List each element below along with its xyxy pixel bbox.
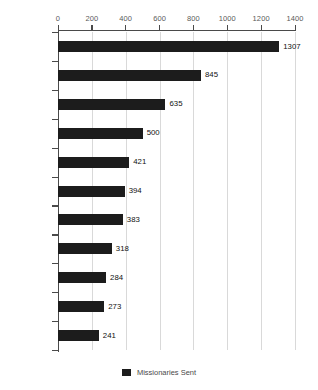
bar-row: PCK (R1)421 <box>58 148 295 177</box>
bar-value-label: 845 <box>205 69 218 80</box>
bar-value-label: 241 <box>103 330 116 341</box>
bar-row: K. Baptist500 <box>58 119 295 148</box>
x-axis-tick-label: 1200 <box>253 14 270 23</box>
bar-row: PCK (KS)273 <box>58 292 295 321</box>
bar-value-label: 383 <box>127 214 140 225</box>
bar-row: Evan (KS)241 <box>58 321 295 350</box>
bar-row: GMS1307 <box>58 32 295 61</box>
bar-value-label: 1307 <box>283 41 300 52</box>
bar-chart: 0200400600800100012001400 GMS1307PCK (T)… <box>0 0 318 390</box>
bar <box>58 301 104 312</box>
bar-value-label: 500 <box>147 127 160 138</box>
y-axis-tick <box>52 350 58 351</box>
bar-value-label: 318 <box>116 243 129 254</box>
chart-legend: Missionaries Sent <box>0 368 318 377</box>
legend-swatch-missionaries-sent <box>122 369 131 376</box>
x-axis-tick-label: 600 <box>153 14 166 23</box>
bar-row: Evan (YS)394 <box>58 177 295 206</box>
bar-value-label: 284 <box>110 272 123 283</box>
bar-row: PCK (T)845 <box>58 61 295 90</box>
bar-row: PCK (DS)318 <box>58 234 295 263</box>
bar <box>58 99 165 110</box>
bar <box>58 157 129 168</box>
x-axis-tick-label: 400 <box>119 14 132 23</box>
x-axis-tick-label: 1000 <box>219 14 236 23</box>
bar <box>58 70 201 81</box>
bar-value-label: 635 <box>169 98 182 109</box>
bar-row: Methodist635 <box>58 90 295 119</box>
bar-row: PCK (R2)383 <box>58 205 295 234</box>
bar-value-label: 394 <box>129 185 142 196</box>
bar <box>58 214 123 225</box>
x-axis-tick-label: 800 <box>187 14 200 23</box>
x-axis-tick-label: 1400 <box>286 14 303 23</box>
bar <box>58 272 106 283</box>
plot-area: GMS1307PCK (T)845Methodist635K. Baptist5… <box>58 32 295 350</box>
bar <box>58 41 279 52</box>
bar <box>58 186 125 197</box>
bar <box>58 128 143 139</box>
gridline <box>295 32 296 350</box>
bar <box>58 243 112 254</box>
legend-label-missionaries-sent: Missionaries Sent <box>137 368 196 377</box>
bar <box>58 330 99 341</box>
bar-value-label: 273 <box>108 301 121 312</box>
x-axis-tick-label: 200 <box>85 14 98 23</box>
bar-value-label: 421 <box>133 156 146 167</box>
x-axis-tick-label: 0 <box>56 14 60 23</box>
bar-row: AOG284 <box>58 263 295 292</box>
